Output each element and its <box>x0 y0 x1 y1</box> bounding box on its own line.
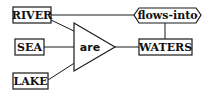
node-flows-into-label: flows-into <box>137 9 197 22</box>
edge-lake-are <box>48 62 76 80</box>
node-are-label: are <box>80 41 100 54</box>
node-flows-into[interactable]: flows-into <box>134 8 201 23</box>
node-river-label: RIVER <box>12 9 53 22</box>
node-lake[interactable]: LAKE <box>13 73 48 89</box>
node-lake-label: LAKE <box>13 75 47 88</box>
node-river[interactable]: RIVER <box>12 7 53 23</box>
node-are-relation[interactable]: are <box>74 23 115 71</box>
semantic-network-diagram: RIVER SEA LAKE are WATERS flows-into <box>0 0 205 92</box>
node-sea-label: SEA <box>17 41 42 54</box>
node-waters-label: WATERS <box>138 41 192 54</box>
node-sea[interactable]: SEA <box>15 39 44 55</box>
node-waters[interactable]: WATERS <box>138 39 192 55</box>
